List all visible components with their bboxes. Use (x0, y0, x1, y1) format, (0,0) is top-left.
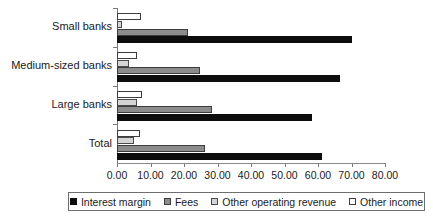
x-axis-tick (251, 163, 252, 167)
x-axis-label-80-00: 80.00 (357, 169, 413, 181)
bar-small-banks-other-income (117, 13, 141, 20)
x-axis-tick (218, 163, 219, 167)
bar-large-banks-other-operating-revenue (117, 99, 137, 106)
category-group-medium-sized-banks: Medium-sized banks (0, 47, 433, 86)
category-group-small-banks: Small banks (0, 8, 433, 47)
bar-medium-sized-banks-other-operating-revenue (117, 60, 129, 67)
legend-label: Fees (175, 196, 198, 208)
x-axis-tick (385, 163, 386, 167)
x-axis-tick (352, 163, 353, 167)
legend-label: Other income (360, 196, 423, 208)
legend-item-fees[interactable]: Fees (164, 196, 198, 208)
chart-legend: Interest marginFeesOther operating reven… (68, 192, 425, 211)
bar-small-banks-other-operating-revenue (117, 21, 122, 28)
legend-swatch-icon-other-operating-revenue (211, 198, 218, 205)
x-axis-tick (285, 163, 286, 167)
y-axis-tick (113, 8, 117, 9)
category-label-total: Total (0, 138, 112, 149)
legend-label: Other operating revenue (222, 196, 336, 208)
bar-total-interest-margin (117, 153, 322, 160)
bar-chart: Small banksMedium-sized banksLarge banks… (0, 0, 433, 220)
bar-total-other-operating-revenue (117, 137, 134, 144)
legend-item-other-income[interactable]: Other income (349, 196, 423, 208)
legend-swatch-icon-other-income (349, 198, 356, 205)
bar-small-banks-interest-margin (117, 36, 352, 43)
y-axis-tick (113, 86, 117, 87)
bar-medium-sized-banks-other-income (117, 52, 137, 59)
bar-large-banks-interest-margin (117, 114, 312, 121)
bar-large-banks-other-income (117, 91, 142, 98)
x-axis-tick (184, 163, 185, 167)
legend-item-other-operating-revenue[interactable]: Other operating revenue (211, 196, 336, 208)
x-axis-tick (318, 163, 319, 167)
x-axis-tick (117, 163, 118, 167)
y-axis-tick (113, 124, 117, 125)
legend-swatch-icon-interest-margin (70, 198, 77, 205)
bar-large-banks-fees (117, 106, 212, 113)
bar-total-other-income (117, 130, 140, 137)
bar-small-banks-fees (117, 29, 188, 36)
legend-label: Interest margin (81, 196, 151, 208)
category-group-total: Total (0, 124, 433, 163)
category-group-large-banks: Large banks (0, 86, 433, 125)
category-label-small-banks: Small banks (0, 21, 112, 32)
x-axis-tick (151, 163, 152, 167)
category-label-large-banks: Large banks (0, 99, 112, 110)
bar-medium-sized-banks-fees (117, 67, 200, 74)
y-axis-tick (113, 47, 117, 48)
legend-swatch-icon-fees (164, 198, 171, 205)
category-label-medium-sized-banks: Medium-sized banks (0, 60, 112, 71)
legend-item-interest-margin[interactable]: Interest margin (70, 196, 151, 208)
bar-total-fees (117, 145, 205, 152)
bar-medium-sized-banks-interest-margin (117, 75, 340, 82)
